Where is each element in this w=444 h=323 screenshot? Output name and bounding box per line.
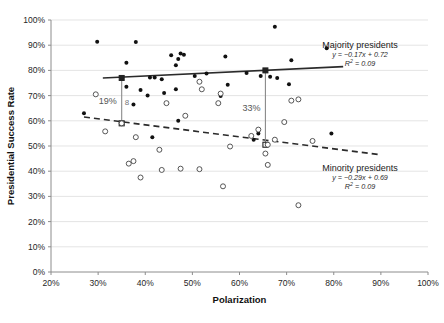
data-point-majority	[245, 71, 249, 75]
y-tick-label: 100%	[23, 15, 45, 25]
y-tick-label: 80%	[28, 65, 45, 75]
data-point-minority	[138, 175, 143, 180]
data-point-minority	[159, 167, 164, 172]
annotation-endpoint-top	[263, 68, 268, 73]
data-point-majority	[223, 55, 227, 59]
data-point-majority	[289, 58, 293, 62]
data-point-majority	[226, 83, 230, 87]
x-tick-label: 50%	[184, 278, 201, 288]
data-point-majority	[205, 71, 209, 75]
data-point-majority	[146, 94, 150, 98]
data-point-majority	[131, 102, 135, 106]
legend-title-minority: Minority presidents	[322, 163, 398, 173]
chart-canvas: 0%10%20%30%40%50%60%70%80%90%100%20%30%4…	[0, 0, 444, 323]
data-point-majority	[82, 111, 86, 115]
y-tick-label: 50%	[28, 141, 45, 151]
data-point-minority	[197, 167, 202, 172]
data-point-minority	[218, 91, 223, 96]
y-tick-label: 70%	[28, 91, 45, 101]
data-point-minority	[228, 144, 233, 149]
annotation-brace-mark: 8	[125, 98, 130, 107]
data-point-minority	[310, 138, 315, 143]
data-point-minority	[256, 127, 261, 132]
scatter-chart: 0%10%20%30%40%50%60%70%80%90%100%20%30%4…	[0, 0, 444, 323]
data-point-majority	[182, 53, 186, 57]
data-point-minority	[272, 137, 277, 142]
data-point-majority	[150, 135, 154, 139]
data-point-majority	[95, 40, 99, 44]
data-point-minority	[221, 184, 226, 189]
data-point-majority	[329, 131, 333, 135]
y-tick-label: 10%	[28, 242, 45, 252]
legend-title-majority: Majority presidents	[322, 40, 398, 50]
data-point-minority	[93, 92, 98, 97]
x-tick-label: 80%	[325, 278, 342, 288]
y-tick-label: 90%	[28, 40, 45, 50]
data-point-minority	[199, 87, 204, 92]
data-point-majority	[174, 63, 178, 67]
data-point-minority	[103, 129, 108, 134]
trendline-majority-presidents	[103, 67, 343, 78]
data-point-minority	[119, 121, 124, 126]
data-point-minority	[249, 133, 254, 138]
legend-rsquared-minority: R2 = 0.09	[345, 181, 375, 191]
x-tick-label: 20%	[42, 278, 59, 288]
legend-rsquared-majority: R2 = 0.09	[345, 58, 375, 68]
data-point-minority	[265, 162, 270, 167]
data-point-majority	[124, 85, 128, 89]
data-point-minority	[133, 135, 138, 140]
data-point-majority	[176, 119, 180, 123]
x-axis-title: Polarization	[213, 294, 267, 305]
x-tick-label: 90%	[372, 278, 389, 288]
trendline-minority-presidents	[84, 117, 381, 155]
data-point-minority	[296, 203, 301, 208]
data-point-minority	[263, 151, 268, 156]
annotation-label: 33%	[242, 103, 260, 113]
y-tick-label: 30%	[28, 191, 45, 201]
data-point-majority	[162, 91, 166, 95]
data-point-majority	[176, 57, 180, 61]
data-point-minority	[126, 161, 131, 166]
data-point-minority	[157, 147, 162, 152]
data-point-minority	[216, 101, 221, 106]
data-point-majority	[275, 76, 279, 80]
x-tick-label: 70%	[278, 278, 295, 288]
data-point-minority	[265, 142, 270, 147]
annotation-endpoint-top	[119, 75, 124, 80]
data-point-majority	[174, 87, 178, 91]
data-point-majority	[134, 40, 138, 44]
y-axis-title: Presidential Success Rate	[5, 87, 16, 205]
data-point-majority	[273, 25, 277, 29]
y-tick-label: 20%	[28, 217, 45, 227]
data-point-minority	[131, 159, 136, 164]
y-tick-label: 0%	[33, 267, 46, 277]
data-point-majority	[193, 74, 197, 78]
x-tick-label: 30%	[90, 278, 107, 288]
x-tick-label: 40%	[137, 278, 154, 288]
data-point-majority	[268, 75, 272, 79]
x-tick-label: 100%	[417, 278, 439, 288]
data-point-majority	[259, 74, 263, 78]
x-tick-label: 60%	[231, 278, 248, 288]
data-point-minority	[282, 120, 287, 125]
data-point-majority	[153, 75, 157, 79]
data-point-majority	[169, 53, 173, 57]
data-point-minority	[197, 79, 202, 84]
data-point-majority	[287, 82, 291, 86]
data-point-majority	[160, 77, 164, 81]
data-point-minority	[178, 166, 183, 171]
data-point-majority	[139, 88, 143, 92]
data-point-majority	[148, 75, 152, 79]
y-tick-label: 40%	[28, 166, 45, 176]
annotation-label: 19%	[99, 96, 117, 106]
data-point-minority	[296, 97, 301, 102]
data-point-majority	[124, 61, 128, 65]
y-tick-label: 60%	[28, 116, 45, 126]
data-point-minority	[289, 98, 294, 103]
data-point-minority	[164, 101, 169, 106]
data-point-minority	[183, 113, 188, 118]
